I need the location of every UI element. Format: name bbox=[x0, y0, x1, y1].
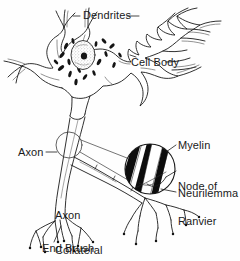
label-node-of-ranvier: Node of Ranvier bbox=[178, 158, 217, 250]
label-axon: Axon bbox=[18, 147, 43, 159]
magnification-source-circle bbox=[56, 132, 82, 158]
nucleus bbox=[71, 41, 95, 70]
label-neurilemma: Neurilemma bbox=[178, 188, 238, 200]
label-end-brush: End Brush bbox=[42, 243, 94, 255]
label-dendrites: Dendrites bbox=[83, 10, 131, 22]
neuron-diagram: Dendrites Cell Body Axon Axon Collateral… bbox=[0, 0, 240, 261]
nucleolus bbox=[81, 52, 87, 59]
label-myelin: Myelin bbox=[178, 140, 210, 152]
axon-hillock bbox=[70, 96, 90, 119]
dendrites-left bbox=[4, 59, 25, 83]
label-axon-collateral-line1: Axon bbox=[55, 210, 102, 222]
label-node-of-ranvier-line2: Ranvier bbox=[178, 216, 217, 228]
label-cell-body: Cell Body bbox=[131, 57, 179, 69]
